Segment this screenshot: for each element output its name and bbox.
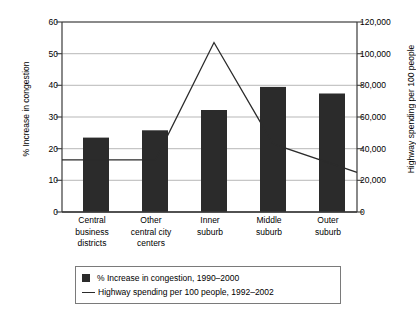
x-label-line-1: Outer	[295, 215, 361, 227]
legend-square-icon	[82, 274, 90, 282]
legend-label-congestion: % Increase in congestion, 1990–2000	[97, 273, 239, 283]
x-label-middle-suburb: Middle suburb	[236, 215, 302, 238]
x-label-other-central-city-centers: Other central city centers	[118, 215, 184, 250]
x-label-line-2: suburb	[236, 227, 302, 239]
x-label-line-1: Other	[118, 215, 184, 227]
legend-label-highway-spending: Highway spending per 100 people, 1992–20…	[98, 287, 274, 297]
chart-container: % Increase in congestion Highway spendin…	[0, 0, 416, 318]
legend-item-congestion: % Increase in congestion, 1990–2000	[82, 271, 334, 285]
x-label-line-1: Inner	[177, 215, 243, 227]
x-label-line-3: districts	[59, 238, 125, 250]
bar-inner-suburb	[201, 110, 227, 212]
x-label-inner-suburb: Inner suburb	[177, 215, 243, 238]
tick-marks-right	[357, 22, 363, 212]
chart-legend: % Increase in congestion, 1990–2000 High…	[75, 266, 341, 304]
tick-marks-left	[56, 22, 62, 212]
x-label-line-3: centers	[118, 238, 184, 250]
x-label-line-2: suburb	[295, 227, 361, 239]
x-label-line-1: Middle	[236, 215, 302, 227]
x-axis-category-labels: Central business districts Other central…	[62, 215, 357, 261]
legend-item-highway-spending: Highway spending per 100 people, 1992–20…	[82, 285, 334, 299]
bar-central-business-districts	[83, 138, 109, 212]
x-label-line-2: business	[59, 227, 125, 239]
x-label-line-2: central city	[118, 227, 184, 239]
legend-line-icon	[82, 292, 95, 293]
x-label-line-2: suburb	[177, 227, 243, 239]
x-label-outer-suburb: Outer suburb	[295, 215, 361, 238]
bar-series	[83, 87, 345, 212]
bar-outer-suburb	[319, 94, 345, 213]
x-label-line-1: Central	[59, 215, 125, 227]
x-label-central-business-districts: Central business districts	[59, 215, 125, 250]
bar-middle-suburb	[260, 87, 286, 212]
